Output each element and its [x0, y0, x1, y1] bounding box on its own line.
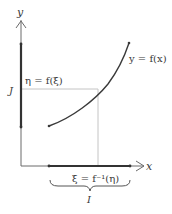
xi-label: ξ = f⁻¹(η)	[72, 173, 119, 184]
x-axis-label: x	[146, 160, 153, 173]
curve-end-end	[128, 42, 131, 45]
curve-label: y = f(x)	[128, 53, 167, 64]
interval-i-label: I	[86, 194, 92, 205]
diagram-canvas: y x y = f(x) η = f(ξ) J ξ = f⁻¹(η) I	[0, 0, 172, 214]
interval-j-end-bottom	[20, 126, 23, 129]
curve-end-start	[48, 125, 51, 128]
eta-label: η = f(ξ)	[25, 75, 63, 86]
interval-i-end-left	[48, 165, 51, 168]
interval-j-end-top	[20, 43, 23, 46]
interval-i-end-right	[129, 165, 132, 168]
interval-j-label: J	[7, 85, 14, 96]
y-axis-label: y	[16, 6, 24, 19]
